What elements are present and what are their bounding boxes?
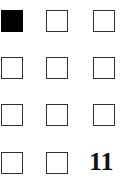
grid-cell[interactable]	[93, 10, 115, 32]
grid-cell[interactable]	[46, 152, 68, 174]
grid-cell[interactable]	[1, 104, 23, 126]
grid-cell[interactable]	[46, 104, 68, 126]
grid-cell[interactable]	[1, 152, 23, 174]
grid-cell-filled[interactable]	[1, 10, 23, 32]
grid-cell[interactable]	[93, 57, 115, 79]
grid-cell[interactable]	[46, 10, 68, 32]
grid-cell[interactable]	[1, 57, 23, 79]
grid-cell[interactable]	[93, 104, 115, 126]
number-cell: 11	[89, 151, 114, 173]
grid-cell[interactable]	[46, 57, 68, 79]
